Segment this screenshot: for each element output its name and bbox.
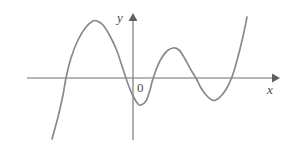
y-axis-arrowhead: [129, 13, 138, 21]
origin-label: 0: [137, 81, 144, 94]
x-axis-label: x: [267, 83, 273, 96]
plot-canvas: [0, 0, 290, 145]
y-axis-label: y: [117, 11, 123, 24]
graph-figure: y x 0: [0, 0, 290, 145]
x-axis-arrowhead: [272, 74, 280, 83]
